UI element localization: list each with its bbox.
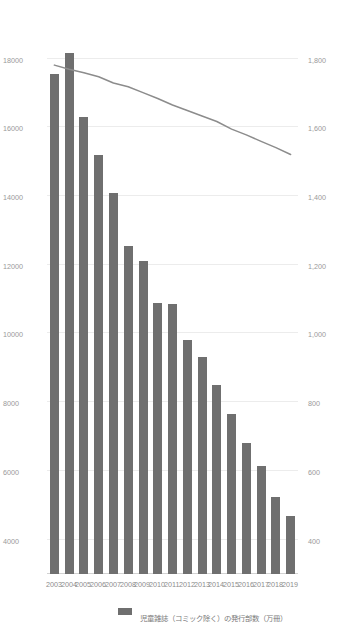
- secondary-axis-tick-label: 800: [308, 399, 320, 408]
- legend-bar-swatch: [118, 608, 132, 615]
- category-label-2003: 2003: [46, 580, 62, 589]
- category-label-2005: 2005: [75, 580, 91, 589]
- category-label-2016: 2016: [238, 580, 254, 589]
- category-label-2014: 2014: [208, 580, 224, 589]
- secondary-axis-tick-label: 400: [308, 537, 320, 546]
- secondary-axis-tick-label: 1,800: [308, 56, 326, 65]
- primary-axis-tick-label: 10000: [3, 331, 23, 340]
- primary-axis-tick-label: 14000: [3, 193, 23, 202]
- primary-axis-tick-label: 4000: [3, 537, 19, 546]
- line-series-path: [54, 65, 290, 154]
- primary-axis-tick-label: 8000: [3, 399, 19, 408]
- line-series-layer: [47, 38, 298, 574]
- category-label-2007: 2007: [105, 580, 121, 589]
- category-label-2010: 2010: [149, 580, 165, 589]
- secondary-axis-tick-label: 1,400: [308, 193, 326, 202]
- primary-axis-tick-label: 18000: [3, 56, 23, 65]
- category-label-2011: 2011: [164, 580, 179, 589]
- category-label-2018: 2018: [267, 580, 283, 589]
- plot-area: [47, 38, 298, 574]
- primary-axis-tick-label: 6000: [3, 468, 19, 477]
- category-label-2006: 2006: [90, 580, 106, 589]
- primary-axis-tick-label: 12000: [3, 262, 23, 271]
- category-label-2012: 2012: [179, 580, 195, 589]
- secondary-axis-tick-label: 1,200: [308, 262, 326, 271]
- secondary-axis-tick-label: 600: [308, 468, 320, 477]
- secondary-axis-tick-label: 1,600: [308, 124, 326, 133]
- rotated-chart-layer: 4000600080001000012000140001600018000 40…: [0, 0, 341, 626]
- category-label-2015: 2015: [223, 580, 239, 589]
- legend-label: 児童雑誌（コミック除く）の発行部数（万冊）: [140, 612, 287, 623]
- primary-axis-tick-label: 16000: [3, 124, 23, 133]
- category-label-2019: 2019: [282, 580, 298, 589]
- secondary-axis-tick-label: 1,000: [308, 331, 326, 340]
- chart-canvas: 4000600080001000012000140001600018000 40…: [0, 0, 341, 626]
